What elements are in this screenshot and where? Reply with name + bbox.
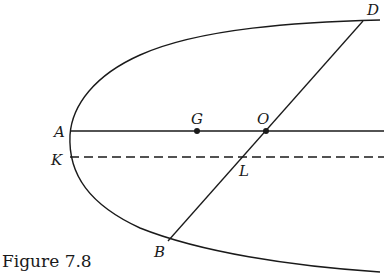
label-o: O <box>257 110 269 128</box>
point-o <box>263 128 269 134</box>
label-l: L <box>238 162 249 180</box>
figure-caption: Figure 7.8 <box>2 251 92 271</box>
label-a: A <box>52 123 65 141</box>
label-g: G <box>191 110 203 128</box>
point-g <box>194 128 200 134</box>
label-k: K <box>50 151 63 169</box>
figure-diagram: A G O D K L B <box>0 0 384 280</box>
label-b: B <box>153 243 165 261</box>
label-d: D <box>366 1 379 19</box>
parabola-curve <box>70 20 380 272</box>
